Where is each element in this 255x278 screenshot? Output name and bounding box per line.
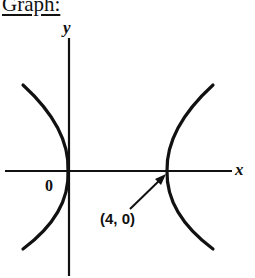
- hyperbola-graph: [0, 0, 255, 278]
- left-branch: [23, 85, 68, 249]
- pointer-arrow: [130, 178, 162, 209]
- origin-label: 0: [45, 177, 53, 195]
- vertex-point-label: (4, 0): [100, 210, 135, 227]
- right-branch: [167, 85, 213, 249]
- y-axis-label: y: [63, 18, 71, 38]
- x-axis-label: x: [235, 160, 244, 180]
